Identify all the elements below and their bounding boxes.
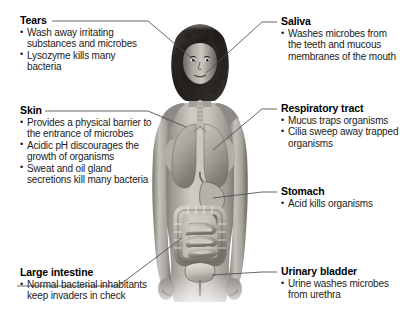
callout-tears-heading: Tears (20, 14, 150, 26)
diagram-canvas: Tears Wash away irritating substances an… (0, 0, 400, 335)
callout-saliva: Saliva Washes microbes from the teeth an… (281, 15, 399, 62)
callout-respiratory-tract-heading: Respiratory tract (281, 102, 399, 114)
list-item: Acid kills organisms (281, 198, 399, 209)
list-item: Mucus traps organisms (281, 115, 399, 126)
callout-urinary-bladder-list: Urine washes microbes from urethra (281, 278, 399, 301)
list-item: Lysozyme kills many bacteria (20, 50, 150, 73)
head-group (171, 24, 229, 101)
callout-large-intestine: Large intestine Normal bacterial inhabit… (20, 266, 160, 302)
list-item: Washes microbes from the teeth and mucou… (281, 28, 399, 62)
list-item: Urine washes microbes from urethra (281, 278, 399, 301)
callout-respiratory-tract: Respiratory tract Mucus traps organisms … (281, 102, 399, 149)
callout-stomach-heading: Stomach (281, 185, 399, 197)
list-item: Cilia sweep away trapped organisms (281, 126, 399, 149)
callout-stomach-list: Acid kills organisms (281, 198, 399, 209)
list-item: Provides a physical barrier to the entra… (20, 117, 152, 140)
callout-urinary-bladder: Urinary bladder Urine washes microbes fr… (281, 265, 399, 301)
callout-large-intestine-heading: Large intestine (20, 266, 160, 278)
callout-tears: Tears Wash away irritating substances an… (20, 14, 150, 73)
callout-stomach: Stomach Acid kills organisms (281, 185, 399, 209)
callout-saliva-list: Washes microbes from the teeth and mucou… (281, 28, 399, 62)
callout-skin-heading: Skin (20, 104, 152, 116)
list-item: Wash away irritating substances and micr… (20, 27, 150, 50)
list-item: Acidic pH discourages the growth of orga… (20, 140, 152, 163)
callout-saliva-heading: Saliva (281, 15, 399, 27)
callout-tears-list: Wash away irritating substances and micr… (20, 27, 150, 73)
list-item: Sweat and oil gland secretions kill many… (20, 163, 152, 186)
callout-skin: Skin Provides a physical barrier to the … (20, 104, 152, 185)
list-item: Normal bacterial inhabitants keep invade… (20, 279, 160, 302)
callout-large-intestine-list: Normal bacterial inhabitants keep invade… (20, 279, 160, 302)
callout-skin-list: Provides a physical barrier to the entra… (20, 117, 152, 185)
callout-respiratory-tract-list: Mucus traps organisms Cilia sweep away t… (281, 115, 399, 149)
callout-urinary-bladder-heading: Urinary bladder (281, 265, 399, 277)
